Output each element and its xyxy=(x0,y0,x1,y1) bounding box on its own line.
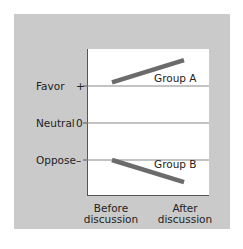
x-label-before: Before discussion xyxy=(76,203,146,224)
x-label-after-line1: After xyxy=(150,203,220,214)
y-symbol-minus: – xyxy=(76,154,81,166)
x-label-after-line2: discussion xyxy=(150,214,220,225)
series-label-group-a: Group A xyxy=(154,72,197,84)
y-label-neutral: Neutral xyxy=(36,117,75,129)
y-symbol-plus: + xyxy=(76,80,85,92)
x-label-after: After discussion xyxy=(150,203,220,224)
x-label-before-line1: Before xyxy=(76,203,146,214)
y-symbol-zero: 0 xyxy=(76,117,83,129)
x-label-before-line2: discussion xyxy=(76,214,146,225)
y-label-oppose: Oppose xyxy=(36,154,76,166)
series-label-group-b: Group B xyxy=(154,158,197,170)
y-label-favor: Favor xyxy=(36,80,64,92)
